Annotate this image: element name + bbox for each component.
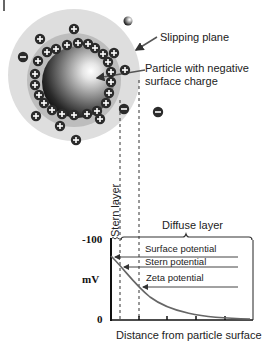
positive-ion-icon [106,67,116,77]
y-tick-minus-100: -100 [82,233,103,245]
negative-ion-icon [119,104,129,114]
particle-label-line2: surface charge [145,75,218,87]
positive-ion-icon [73,38,83,48]
positive-ion-icon [109,48,119,58]
surface-potential-label: Surface potential [145,243,216,254]
positive-ion-icon [101,98,111,108]
negative-ion-icon [153,107,163,117]
particle-label-line1: Particle with negative [145,62,249,74]
cropped-bar [3,0,5,11]
positive-ion-icon [69,110,79,120]
positive-ion-icon [34,90,44,100]
slipping-plane-arrow [136,37,157,50]
positive-ion-icon [42,47,52,57]
positive-ion-icon [35,34,45,44]
positive-ion-icon [62,40,72,50]
y-tick-0: 0 [97,313,103,325]
diffuse-layer-label: Diffuse layer [162,219,223,231]
negative-ion-icon [18,52,28,62]
stern-potential-label: Stern potential [145,256,206,267]
positive-ion-icon [95,114,105,124]
positive-ion-icon [51,44,61,54]
x-axis-label: Distance from particle surface [116,329,262,341]
positive-ion-icon [104,88,114,98]
zeta-potential-label: Zeta potential [146,272,204,283]
positive-ion-icon [82,109,92,119]
positive-ion-icon [33,56,43,66]
positive-ion-icon [71,135,81,145]
positive-ion-icon [30,69,40,79]
positive-ion-icon [106,77,116,87]
positive-ion-icon [30,80,40,90]
positive-ion-icon [103,57,113,67]
diffuse-brace [121,234,252,240]
positive-ion-icon [55,121,65,131]
y-axis-label: mV [82,273,99,285]
positive-ion-icon [69,24,79,34]
positive-ion-icon [57,109,67,119]
positive-ion-icon [120,65,130,75]
positive-ion-icon [31,111,41,121]
slipping-plane-label: Slipping plane [160,31,229,43]
electric-double-layer-diagram: Slipping plane Particle with negative su… [0,0,268,349]
stern-layer-label: Stern layer [109,183,121,237]
positive-ion-icon [47,105,57,115]
small-particle-icon [124,17,133,26]
